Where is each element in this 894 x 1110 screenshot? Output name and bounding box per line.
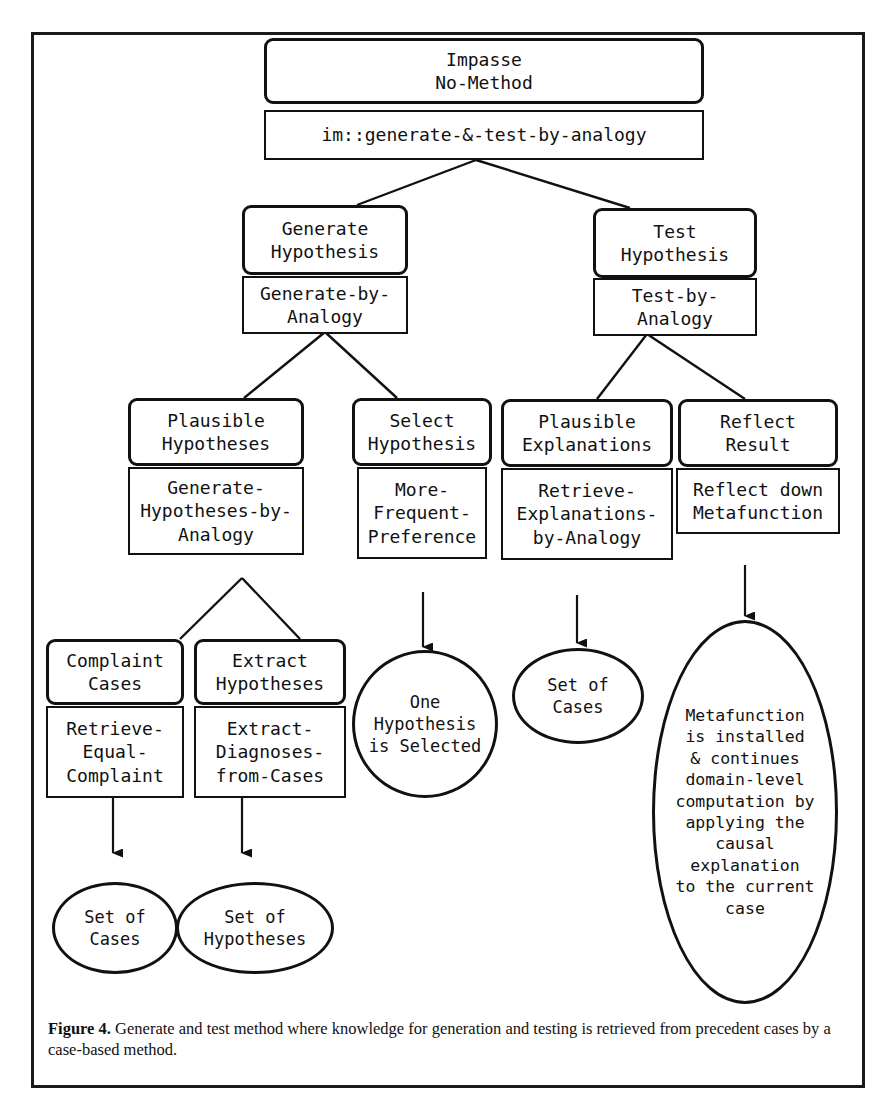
node-set-of-hypotheses[interactable]: Set of Hypotheses bbox=[176, 882, 334, 974]
node-select-hypothesis[interactable]: Select Hypothesis bbox=[352, 398, 492, 466]
node-set-of-cases-right[interactable]: Set of Cases bbox=[512, 648, 644, 744]
node-plausible-hypotheses[interactable]: Plausible Hypotheses bbox=[128, 398, 304, 466]
node-im-generate-and-test-by-analogy[interactable]: im::generate-&-test-by-analogy bbox=[264, 110, 704, 160]
node-retrieve-equal-complaint[interactable]: Retrieve- Equal- Complaint bbox=[46, 706, 184, 798]
node-plausible-explanations[interactable]: Plausible Explanations bbox=[501, 399, 673, 467]
node-set-of-cases-left[interactable]: Set of Cases bbox=[52, 882, 178, 974]
node-extract-hypotheses[interactable]: Extract Hypotheses bbox=[194, 639, 346, 705]
node-retrieve-explanations-by-analogy[interactable]: Retrieve- Explanations- by-Analogy bbox=[501, 468, 673, 560]
node-test-by-analogy[interactable]: Test-by- Analogy bbox=[593, 278, 757, 336]
node-one-hypothesis-is-selected[interactable]: One Hypothesis is Selected bbox=[352, 650, 498, 798]
figure-caption-text: Generate and test method where knowledge… bbox=[48, 1019, 831, 1059]
node-test-hypothesis[interactable]: Test Hypothesis bbox=[593, 208, 757, 278]
node-extract-diagnoses-from-cases[interactable]: Extract- Diagnoses- from-Cases bbox=[194, 706, 346, 798]
node-reflect-down-metafunction[interactable]: Reflect down Metafunction bbox=[676, 468, 840, 534]
node-impasse[interactable]: Impasse No-Method bbox=[264, 38, 704, 104]
diagram-canvas: Impasse No-Method im::generate-&-test-by… bbox=[0, 0, 894, 1110]
node-generate-hypothesis[interactable]: Generate Hypothesis bbox=[242, 205, 408, 275]
node-reflect-result[interactable]: Reflect Result bbox=[678, 399, 838, 467]
node-more-frequent-preference[interactable]: More- Frequent- Preference bbox=[357, 467, 487, 559]
node-metafunction-result[interactable]: Metafunction is installed & continues do… bbox=[652, 620, 838, 1004]
node-complaint-cases[interactable]: Complaint Cases bbox=[46, 639, 184, 705]
figure-caption: Figure 4. Generate and test method where… bbox=[48, 1018, 850, 1061]
node-generate-by-analogy[interactable]: Generate-by- Analogy bbox=[242, 276, 408, 334]
figure-caption-label: Figure 4. bbox=[48, 1019, 111, 1038]
node-generate-hypotheses-by-analogy[interactable]: Generate- Hypotheses-by- Analogy bbox=[128, 467, 304, 555]
